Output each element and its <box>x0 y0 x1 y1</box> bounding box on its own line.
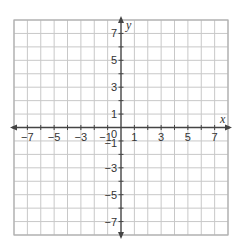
y-tick-label: −7 <box>104 216 117 228</box>
y-tick-label: 5 <box>111 54 117 66</box>
x-tick-label: 1 <box>131 131 137 143</box>
x-tick-label: −7 <box>21 131 34 143</box>
y-tick-label: 7 <box>111 27 117 39</box>
coordinate-plane: −7−5−3−11357 7531−1−3−5−7 x y 0 <box>0 0 238 246</box>
y-tick-label: −5 <box>104 189 117 201</box>
x-axis-label: x <box>219 112 226 126</box>
y-tick-label: −3 <box>104 162 117 174</box>
x-tick-label: −3 <box>75 131 88 143</box>
y-tick-label: 1 <box>111 108 117 120</box>
y-axis-label: y <box>125 18 132 32</box>
x-tick-label: −5 <box>48 131 61 143</box>
x-tick-label: 5 <box>185 131 191 143</box>
axes <box>10 16 232 239</box>
x-tick-label: 7 <box>212 131 218 143</box>
y-tick-label: 3 <box>111 81 117 93</box>
origin-label: 0 <box>111 128 117 140</box>
x-tick-label: 3 <box>158 131 164 143</box>
